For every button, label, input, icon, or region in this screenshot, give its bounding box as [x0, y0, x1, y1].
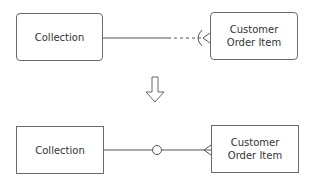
entity-collection-before: Collection — [16, 13, 103, 61]
entity-customer-order-item-before: Customer Order Item — [210, 12, 298, 60]
entity-label: Collection — [35, 31, 84, 44]
entity-collection-after: Collection — [16, 126, 104, 174]
entity-label: Customer Order Item — [228, 136, 282, 162]
bottom-zero-circle-icon — [153, 146, 162, 155]
entity-customer-order-item-after: Customer Order Item — [211, 125, 299, 173]
entity-label: Collection — [35, 144, 84, 157]
down-arrow-icon — [146, 77, 164, 102]
top-crows-foot-icon — [203, 33, 210, 43]
entity-label: Customer Order Item — [227, 23, 281, 49]
